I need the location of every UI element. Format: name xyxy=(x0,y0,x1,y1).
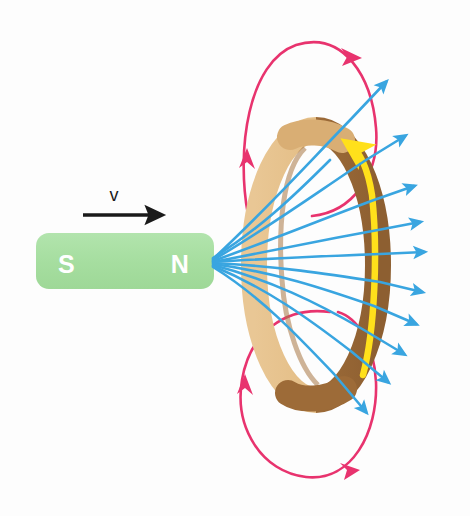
magnet-south-pole-label: S xyxy=(58,250,75,278)
diagram-canvas: S N v xyxy=(0,0,470,516)
velocity-label: v xyxy=(110,185,119,205)
magnet-north-pole-label: N xyxy=(171,250,190,278)
physics-diagram-electromagnetic-induction: S N v xyxy=(0,0,470,516)
ring-bottom-join xyxy=(288,389,344,399)
bar-magnet: S N xyxy=(36,233,214,289)
